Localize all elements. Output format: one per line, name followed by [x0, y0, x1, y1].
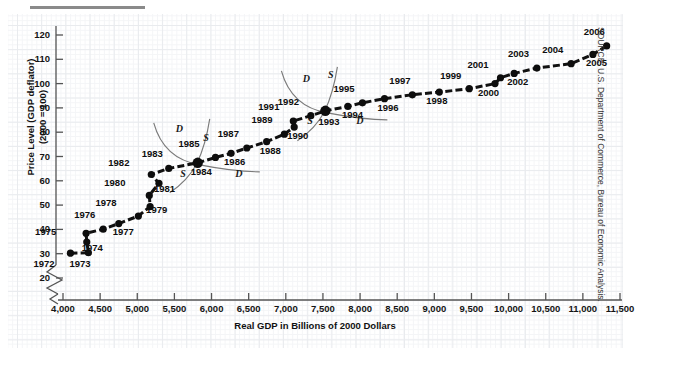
data-point-label: 1990: [287, 130, 308, 141]
data-point-label: 1976: [74, 209, 95, 220]
data-point-label: 1998: [426, 95, 447, 106]
supply-curve-1984-label: S: [203, 132, 209, 143]
demand-curve-1984-label: D: [176, 123, 183, 134]
data-point-label: 1983: [142, 148, 163, 159]
data-point-label: 1986: [224, 156, 245, 167]
source-note: SOURCE: U.S. Department of Commerce, Bur…: [596, 27, 606, 327]
data-point-label: 1980: [104, 177, 125, 188]
supply-curve-1984-lower-label: S: [180, 168, 186, 179]
data-point-label: 1984: [191, 166, 212, 177]
demand-curve-1993-lower-label: D: [356, 115, 363, 126]
x-axis-title: Real GDP in Billions of 2000 Dollars: [120, 320, 510, 331]
data-point-label: 1975: [35, 226, 56, 237]
supply-curve-1993-label: S: [328, 69, 334, 80]
data-point-label: 1996: [378, 102, 399, 113]
data-point-label: 2003: [508, 48, 529, 59]
data-point-label: 1974: [82, 242, 103, 253]
data-point-label: 2000: [478, 87, 499, 98]
supply-curve-1993-lower-label: S: [307, 115, 313, 126]
data-point-label: 1977: [113, 226, 134, 237]
data-point-label: 1999: [440, 70, 461, 81]
demand-curve-1984-lower-label: D: [235, 168, 242, 179]
data-point-label: 2001: [468, 59, 489, 70]
y-axis-title-line2: (2000 = 100): [37, 90, 48, 144]
data-point-label: 1987: [218, 128, 239, 139]
data-point-label: 1985: [178, 138, 199, 149]
y-tick-label: 20: [10, 272, 50, 283]
data-point-label: 1979: [146, 204, 167, 215]
data-point-label: 1988: [260, 145, 281, 156]
y-axis-title-line1: Price Level (GDP deflator): [25, 58, 36, 175]
data-point-label: 2002: [507, 76, 528, 87]
data-point-label: 2004: [542, 44, 563, 55]
data-point-label: 1995: [333, 83, 354, 94]
data-point-label: 1972: [33, 258, 54, 269]
data-point-label: 1989: [251, 114, 272, 125]
data-point-label: 1982: [108, 157, 129, 168]
data-point-label: 1993: [318, 116, 339, 127]
data-point-label: 1978: [95, 197, 116, 208]
data-point-label: 1991: [258, 101, 279, 112]
y-tick-label: 30: [10, 248, 50, 259]
data-point-label: 1973: [69, 258, 90, 269]
data-point-label: 1997: [389, 75, 410, 86]
data-point-label: 1992: [278, 96, 299, 107]
demand-curve-1993-label: D: [303, 73, 310, 84]
y-axis-title: Price Level (GDP deflator) (2000 = 100): [25, 17, 49, 217]
data-point-label: 1981: [154, 183, 175, 194]
chart-plot-area: [0, 0, 683, 372]
